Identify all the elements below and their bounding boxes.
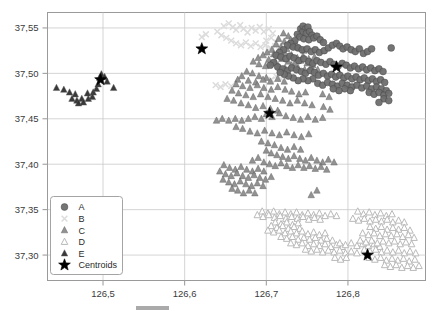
legend-label-a: A xyxy=(79,202,85,212)
y-tick-label-4: 37,50 xyxy=(15,68,39,79)
legend-label-b: B xyxy=(79,214,85,224)
x-tick-label-3: 126,8 xyxy=(336,288,360,299)
legend-label-c: C xyxy=(79,226,86,236)
point-A-95 xyxy=(381,79,388,86)
point-A-122 xyxy=(330,85,337,92)
y-tick-label-3: 37,45 xyxy=(15,113,39,124)
y-tick-label-1: 37,35 xyxy=(15,204,39,215)
legend[interactable]: ABCDECentroids xyxy=(51,197,123,275)
point-A-115 xyxy=(385,90,392,97)
x-tick-label-2: 126,7 xyxy=(254,288,278,299)
y-tick-label-0: 37,30 xyxy=(15,250,39,261)
point-A-118 xyxy=(376,99,383,106)
x-tick-label-0: 126,5 xyxy=(91,288,115,299)
x-tick-label-1: 126,6 xyxy=(173,288,197,299)
y-tick-label-5: 37,55 xyxy=(15,22,39,33)
point-A-38 xyxy=(368,45,375,52)
scatter-plot-figure: 126,5126,6126,7126,8 37,3037,3537,4037,4… xyxy=(0,0,431,315)
scatter-plot-canvas: 126,5126,6126,7126,8 37,3037,3537,4037,4… xyxy=(0,0,431,315)
point-A-39 xyxy=(388,45,395,52)
point-A-69 xyxy=(267,62,274,69)
legend-marker-a-icon xyxy=(61,204,68,211)
page-artifact-bar xyxy=(136,306,169,310)
legend-label-centroids: Centroids xyxy=(79,260,118,270)
point-A-15 xyxy=(320,39,327,46)
point-A-67 xyxy=(380,68,387,75)
legend-label-e: E xyxy=(79,249,85,259)
point-A-130 xyxy=(277,69,284,76)
y-tick-label-2: 37,40 xyxy=(15,159,39,170)
legend-label-d: D xyxy=(79,237,86,247)
point-A-117 xyxy=(385,97,392,104)
